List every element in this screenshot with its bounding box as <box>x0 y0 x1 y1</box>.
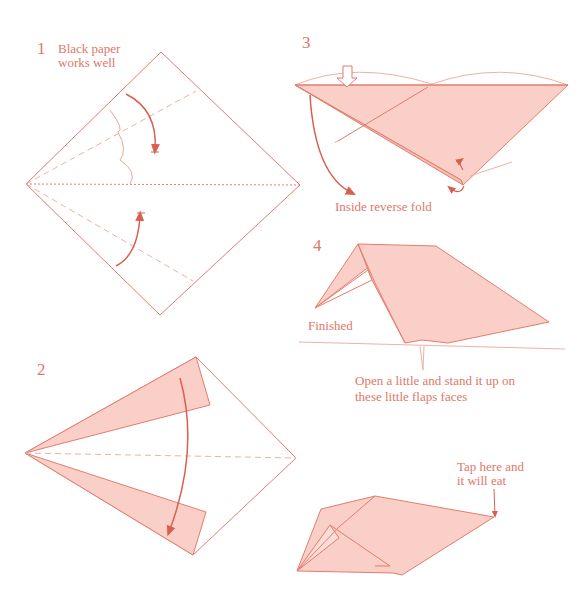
instruction-line1: Open a little and stand it up on <box>355 374 515 388</box>
square-paper <box>26 52 300 315</box>
tap-note-line1: Tap here and <box>457 460 524 474</box>
step1-diagram <box>26 52 300 315</box>
step-2-number: 2 <box>37 360 46 380</box>
step-3-note: Inside reverse fold <box>335 200 432 214</box>
ground-line <box>299 342 565 349</box>
step5-diagram <box>297 489 495 575</box>
instruction-line2: these little flaps faces <box>355 390 467 404</box>
origami-diagram <box>0 0 588 603</box>
finished-label: Finished <box>308 319 353 333</box>
push-arrow-icon <box>337 66 357 87</box>
step4-diagram <box>299 244 565 370</box>
tap-note-line2: it will eat <box>457 474 506 488</box>
step3-diagram <box>295 66 568 193</box>
step-1-note-line1: Black paper <box>58 42 120 56</box>
step-1-note-line2: works well <box>58 56 115 70</box>
step-3-number: 3 <box>302 33 311 53</box>
step2-diagram <box>25 357 296 555</box>
step-1-number: 1 <box>37 39 46 59</box>
step-4-number: 4 <box>313 236 322 256</box>
tap-arrow-icon <box>494 489 495 515</box>
